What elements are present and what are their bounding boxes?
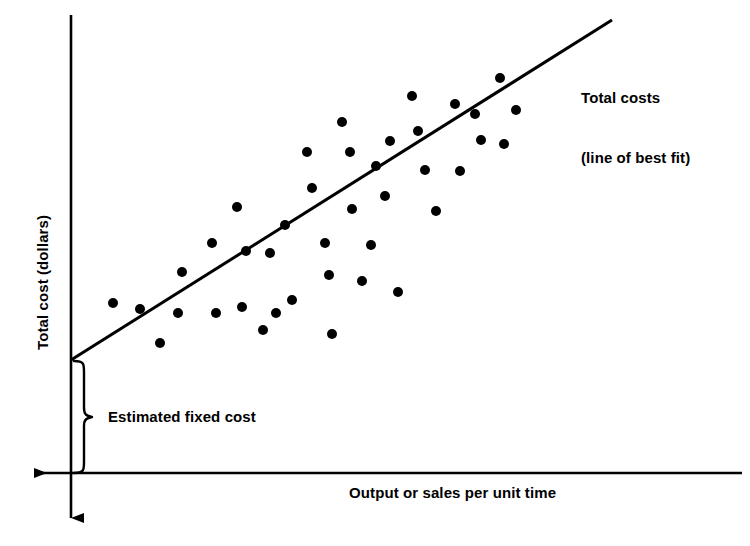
scatter-point xyxy=(499,139,509,149)
scatter-point xyxy=(366,240,376,250)
scatter-point xyxy=(324,270,334,280)
scatter-point xyxy=(211,308,221,318)
scatter-point xyxy=(241,246,251,256)
scatter-point xyxy=(345,147,355,157)
scatter-point xyxy=(232,202,242,212)
scatter-point xyxy=(135,304,145,314)
scatter-point xyxy=(337,117,347,127)
scatter-point xyxy=(470,109,480,119)
scatter-point xyxy=(287,295,297,305)
cost-behavior-scatter-figure: Total cost (dollars) Output or sales per… xyxy=(0,0,750,546)
scatter-point xyxy=(450,99,460,109)
scatter-point xyxy=(371,161,381,171)
scatter-point xyxy=(271,308,281,318)
scatter-point-group xyxy=(108,73,521,348)
scatter-point xyxy=(347,204,357,214)
scatter-point xyxy=(307,183,317,193)
scatter-point xyxy=(385,136,395,146)
x-axis-label: Output or sales per unit time xyxy=(349,483,556,503)
scatter-point xyxy=(476,135,486,145)
scatter-point xyxy=(511,105,521,115)
scatter-point xyxy=(495,73,505,83)
scatter-point xyxy=(177,267,187,277)
scatter-point xyxy=(420,165,430,175)
line-of-best-fit-label-line-1: Total costs xyxy=(581,88,690,108)
scatter-point xyxy=(155,338,165,348)
estimated-fixed-cost-label: Estimated fixed cost xyxy=(108,407,256,427)
scatter-point xyxy=(320,238,330,248)
line-of-best-fit-label: Total costs (line of best fit) xyxy=(581,48,690,208)
scatter-point xyxy=(413,126,423,136)
scatter-point xyxy=(380,191,390,201)
scatter-point xyxy=(393,287,403,297)
scatter-point xyxy=(173,308,183,318)
scatter-point xyxy=(207,238,217,248)
scatter-point xyxy=(108,298,118,308)
estimated-fixed-cost-brace xyxy=(74,361,92,473)
scatter-point xyxy=(237,302,247,312)
scatter-point xyxy=(258,325,268,335)
line-of-best-fit xyxy=(71,20,612,360)
scatter-point xyxy=(357,276,367,286)
scatter-point xyxy=(455,166,465,176)
scatter-point xyxy=(265,248,275,258)
scatter-point xyxy=(407,91,417,101)
y-axis-label: Total cost (dollars) xyxy=(33,50,53,350)
line-of-best-fit-label-line-2: (line of best fit) xyxy=(581,148,690,168)
scatter-point xyxy=(431,206,441,216)
scatter-point xyxy=(327,329,337,339)
scatter-point xyxy=(302,147,312,157)
scatter-point xyxy=(280,220,290,230)
